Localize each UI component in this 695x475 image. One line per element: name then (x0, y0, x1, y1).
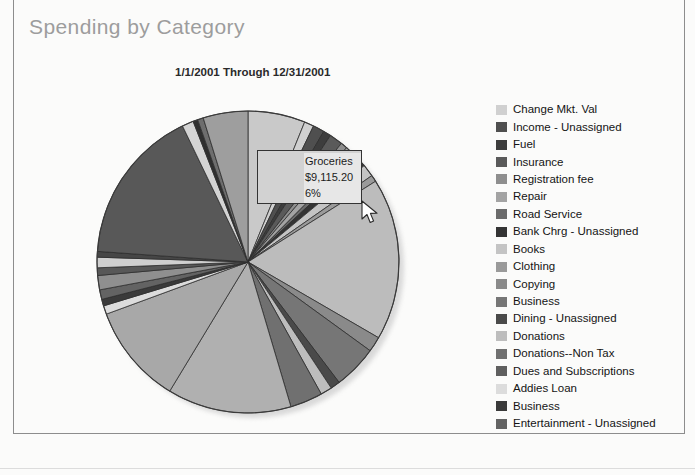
page-frame-lower-edge (0, 468, 695, 469)
page-title: Spending by Category (29, 15, 245, 39)
report-page: Spending by Category 1/1/2001 Through 12… (0, 0, 695, 475)
legend-item-label: Insurance (513, 156, 564, 169)
legend-item[interactable]: Bank Chrg - Unassigned (496, 223, 676, 240)
legend-swatch-icon (496, 349, 507, 359)
tooltip-amount: $9,115.20 (304, 169, 361, 185)
legend-item[interactable]: Income - Unassigned (496, 118, 676, 135)
legend-swatch-icon (496, 227, 507, 237)
legend-item-label: Entertainment - Unassigned (513, 417, 656, 430)
legend-swatch-icon (496, 262, 507, 272)
legend-item-label: Copying (513, 278, 555, 291)
legend-item[interactable]: Business (496, 293, 676, 310)
legend-swatch-icon (496, 401, 507, 411)
legend-item[interactable]: Clothing (496, 258, 676, 275)
legend-item[interactable]: Fuel (496, 136, 676, 153)
legend-item[interactable]: Road Service (496, 206, 676, 223)
legend-swatch-icon (496, 122, 507, 132)
legend-item[interactable]: Change Mkt. Val (496, 101, 676, 118)
legend-item[interactable]: Dining - Unassigned (496, 310, 676, 327)
page-frame-right-border (684, 0, 685, 434)
legend-item-label: Business (513, 400, 560, 413)
legend-swatch-icon (496, 140, 507, 150)
legend-item-label: Donations--Non Tax (513, 347, 614, 360)
legend-item-label: Addies Loan (513, 382, 577, 395)
legend-item-label: Bank Chrg - Unassigned (513, 225, 638, 238)
legend-swatch-icon (496, 174, 507, 184)
legend-item[interactable]: Dues and Subscriptions (496, 363, 676, 380)
legend-swatch-icon (496, 279, 507, 289)
legend-item-label: Clothing (513, 260, 555, 273)
legend-item-label: Dues and Subscriptions (513, 365, 634, 378)
pie-chart-svg[interactable] (90, 104, 410, 424)
legend-swatch-icon (496, 105, 507, 115)
legend-item-label: Registration fee (513, 173, 594, 186)
page-frame-left-border (13, 0, 14, 434)
mouse-pointer-icon (360, 200, 382, 228)
legend-item[interactable]: Business (496, 397, 676, 414)
legend-item-label: Repair (513, 190, 547, 203)
legend-swatch-icon (496, 244, 507, 254)
legend-item[interactable]: Copying (496, 275, 676, 292)
legend-item-label: Business (513, 295, 560, 308)
legend-item-label: Dining - Unassigned (513, 312, 617, 325)
legend-item-label: Books (513, 243, 545, 256)
legend-item-label: Fuel (513, 138, 535, 151)
legend-swatch-icon (496, 297, 507, 307)
legend-item[interactable]: Donations--Non Tax (496, 345, 676, 362)
legend-item-label: Income - Unassigned (513, 121, 622, 134)
legend-item[interactable]: Donations (496, 328, 676, 345)
legend-item[interactable]: Repair (496, 188, 676, 205)
legend-item[interactable]: Entertainment - Unassigned (496, 415, 676, 432)
legend-swatch-icon (496, 209, 507, 219)
report-date-range: 1/1/2001 Through 12/31/2001 (175, 66, 330, 78)
pie-chart[interactable] (90, 104, 410, 424)
chart-legend: Change Mkt. ValIncome - UnassignedFuelIn… (496, 101, 676, 432)
slice-tooltip: Groceries $9,115.20 6% (257, 150, 362, 204)
tooltip-percent: 6% (304, 185, 361, 201)
page-frame-bottom-border (13, 433, 685, 434)
legend-swatch-icon (496, 314, 507, 324)
legend-item[interactable]: Addies Loan (496, 380, 676, 397)
slice-tooltip-inner-panel: Groceries $9,115.20 6% (304, 153, 361, 203)
legend-swatch-icon (496, 331, 507, 341)
legend-swatch-icon (496, 384, 507, 394)
legend-swatch-icon (496, 366, 507, 376)
legend-item[interactable]: Books (496, 241, 676, 258)
legend-item-label: Donations (513, 330, 565, 343)
legend-swatch-icon (496, 192, 507, 202)
legend-item[interactable]: Insurance (496, 153, 676, 170)
legend-item-label: Change Mkt. Val (513, 103, 597, 116)
legend-swatch-icon (496, 419, 507, 429)
legend-item[interactable]: Registration fee (496, 171, 676, 188)
tooltip-category: Groceries (304, 153, 361, 169)
legend-swatch-icon (496, 157, 507, 167)
legend-item-label: Road Service (513, 208, 582, 221)
